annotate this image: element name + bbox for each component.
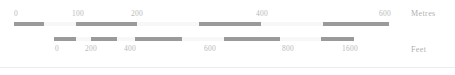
tick-label: 0 <box>14 9 18 19</box>
scale-bar-segment <box>224 37 280 41</box>
tick-label: 400 <box>256 9 268 19</box>
scale-bar-segment <box>182 37 224 41</box>
scale-bar-segment <box>76 22 137 26</box>
tick-label: 600 <box>379 9 391 19</box>
tick-label: 200 <box>131 9 143 19</box>
scale-row-metres: 0100200400600 Metres <box>0 6 455 32</box>
tick-label: 800 <box>282 44 294 54</box>
scale-bar-metres <box>14 22 389 26</box>
scale-bar-segment <box>54 37 76 41</box>
scale-row-feet: 02004006008001600 Feet <box>0 33 455 59</box>
scale-bar-segment <box>44 22 76 26</box>
scale-bar-segment <box>76 37 91 41</box>
scale-bar-segment <box>135 37 182 41</box>
tick-label: 400 <box>124 44 136 54</box>
tick-label: 200 <box>85 44 97 54</box>
scale-bar-segment <box>199 22 261 26</box>
widget-bottom-divider <box>0 67 455 68</box>
scale-bar-feet <box>54 37 354 41</box>
scale-bar-segment <box>323 22 389 26</box>
tick-label: 1600 <box>342 44 358 54</box>
tick-label: 600 <box>204 44 216 54</box>
tick-label: 0 <box>55 44 59 54</box>
scale-bar-segment <box>137 22 199 26</box>
unit-label-feet: Feet <box>411 45 426 55</box>
scale-bar-segment <box>280 37 321 41</box>
map-scale-bar-widget: 0100200400600 Metres 02004006008001600 F… <box>0 0 455 75</box>
scale-bar-segment <box>321 37 354 41</box>
scale-bar-segment <box>91 37 117 41</box>
scale-bar-segment <box>261 22 323 26</box>
unit-label-metres: Metres <box>411 9 436 19</box>
scale-bar-segment <box>14 22 44 26</box>
scale-bar-segment <box>117 37 135 41</box>
tick-label: 100 <box>72 9 84 19</box>
